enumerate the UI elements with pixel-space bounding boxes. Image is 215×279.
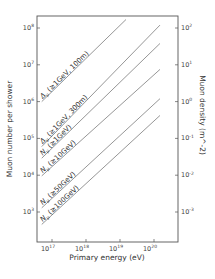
y-tick-label: 108 — [23, 23, 34, 32]
x-tick-label: 1020 — [143, 244, 157, 253]
y2-tick-label: 10-1 — [181, 134, 194, 143]
y-tick-label: 106 — [23, 97, 34, 106]
y2-tick-label: 100 — [181, 97, 192, 106]
x-tick-label: 1019 — [109, 244, 123, 253]
x-axis-title: Primary energy (eV) — [69, 253, 145, 262]
y-tick-label: 103 — [23, 207, 34, 216]
series-3: Nμ (≥1GeV) — [39, 43, 160, 158]
series-label: Δμ (≥1GeV, 300m) — [38, 93, 90, 146]
right-y-axis-title: Muon density (m^-2) — [198, 75, 207, 155]
y-tick-label: 104 — [23, 171, 34, 180]
x-tick-label: 1018 — [75, 244, 89, 253]
y2-tick-label: 10-3 — [181, 207, 194, 216]
y-tick-label: 105 — [23, 134, 34, 143]
x-axis-ticks: 1017101810191020 — [41, 239, 157, 253]
y2-tick-label: 10-2 — [181, 171, 194, 180]
series-lines: Δμ (≥1GeV, 100m)Δμ (≥1GeV, 300m)Nμ (≥1Ge… — [38, 20, 160, 225]
x-tick-label: 1017 — [41, 244, 55, 253]
y2-tick-label: 101 — [181, 60, 192, 69]
y2-tick-label: 102 — [181, 23, 192, 32]
left-y-axis-title: Muon number per shower — [5, 80, 14, 177]
chart: 1017101810191020 108107106105104103 1021… — [0, 0, 215, 279]
y-tick-label: 107 — [23, 60, 34, 69]
